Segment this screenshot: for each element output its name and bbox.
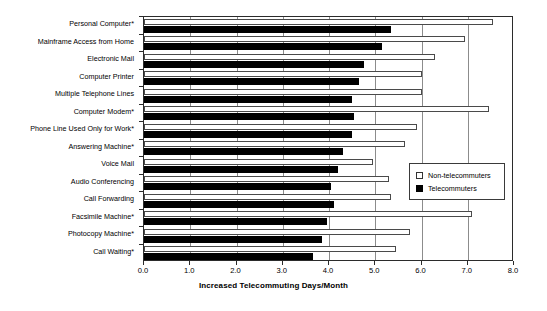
x-axis-tick — [421, 261, 422, 265]
bar-telecommuters — [144, 183, 331, 190]
category-label: Electronic Mail — [87, 55, 134, 63]
bar-row — [144, 124, 512, 142]
bar-row — [144, 211, 512, 229]
bar-telecommuters — [144, 113, 354, 120]
x-axis-tick-label: 7.0 — [461, 266, 472, 275]
telecommuting-bar-chart: Personal Computer*Mainframe Access from … — [0, 0, 547, 311]
bar-non-telecommuters — [144, 71, 422, 77]
bar-row — [144, 36, 512, 54]
hollow-square-swatch-icon — [416, 172, 423, 179]
bar-telecommuters — [144, 218, 327, 225]
category-label: Mainframe Access from Home — [38, 38, 134, 46]
bar-rows — [144, 17, 512, 260]
x-axis-tick — [282, 261, 283, 265]
x-axis-tick — [189, 261, 190, 265]
x-axis-ticks: 0.01.02.03.04.05.06.07.08.0 — [143, 261, 514, 281]
legend-label: Telecommuters — [428, 184, 477, 193]
bar-telecommuters — [144, 61, 364, 68]
category-label: Computer Printer — [79, 73, 134, 81]
bar-telecommuters — [144, 131, 352, 138]
bar-telecommuters — [144, 78, 359, 85]
bar-telecommuters — [144, 253, 313, 260]
category-label: Computer Modem* — [74, 108, 134, 116]
category-label: Facsimile Machine* — [72, 213, 134, 221]
x-axis-tick — [143, 261, 144, 265]
filled-square-swatch-icon — [416, 185, 423, 192]
bar-non-telecommuters — [144, 211, 472, 217]
category-label: Multiple Telephone Lines — [55, 90, 134, 98]
bar-row — [144, 54, 512, 72]
legend-label: Non-telecommuters — [428, 171, 491, 180]
bar-telecommuters — [144, 166, 338, 173]
bar-non-telecommuters — [144, 159, 373, 165]
bar-row — [144, 229, 512, 247]
bar-row — [144, 19, 512, 37]
x-axis-tick-label: 0.0 — [138, 266, 149, 275]
category-label: Voice Mail — [101, 160, 134, 168]
bar-non-telecommuters — [144, 246, 396, 252]
category-label: Audio Conferencing — [71, 178, 134, 186]
bar-telecommuters — [144, 43, 382, 50]
x-axis-tick-label: 6.0 — [415, 266, 426, 275]
x-axis-tick — [374, 261, 375, 265]
bar-non-telecommuters — [144, 106, 489, 112]
category-label: Call Waiting* — [93, 248, 134, 256]
bar-non-telecommuters — [144, 141, 405, 147]
bar-row — [144, 71, 512, 89]
bar-row — [144, 89, 512, 107]
category-label: Photocopy Machine* — [68, 230, 134, 238]
chart-legend: Non-telecommuters Telecommuters — [409, 163, 505, 200]
x-axis-tick — [236, 261, 237, 265]
plot-area — [143, 16, 513, 261]
x-axis-tick-label: 5.0 — [369, 266, 380, 275]
bar-non-telecommuters — [144, 124, 417, 130]
x-axis-title: Increased Telecommuting Days/Month — [0, 281, 547, 290]
legend-item-non-telecommuters: Non-telecommuters — [416, 171, 499, 180]
bar-non-telecommuters — [144, 19, 493, 25]
x-axis-tick-label: 3.0 — [276, 266, 287, 275]
bar-non-telecommuters — [144, 54, 435, 60]
bar-telecommuters — [144, 26, 391, 33]
category-label: Personal Computer* — [69, 20, 134, 28]
category-label: Answering Machine* — [68, 143, 134, 151]
x-axis-tick-label: 4.0 — [323, 266, 334, 275]
bar-non-telecommuters — [144, 89, 422, 95]
bar-non-telecommuters — [144, 36, 465, 42]
category-axis: Personal Computer*Mainframe Access from … — [0, 16, 139, 261]
bar-non-telecommuters — [144, 176, 389, 182]
bar-telecommuters — [144, 236, 322, 243]
bar-telecommuters — [144, 201, 334, 208]
category-label: Call Forwarding — [84, 195, 134, 203]
x-axis-tick-label: 2.0 — [230, 266, 241, 275]
bar-telecommuters — [144, 96, 352, 103]
x-axis-tick — [513, 261, 514, 265]
legend-item-telecommuters: Telecommuters — [416, 184, 499, 193]
x-axis-tick-label: 1.0 — [184, 266, 195, 275]
x-axis-tick-label: 8.0 — [508, 266, 519, 275]
x-axis-tick — [328, 261, 329, 265]
bar-telecommuters — [144, 148, 343, 155]
x-axis-tick — [467, 261, 468, 265]
bar-non-telecommuters — [144, 194, 391, 200]
bar-row — [144, 106, 512, 124]
bar-non-telecommuters — [144, 229, 410, 235]
bar-row — [144, 141, 512, 159]
category-label: Phone Line Used Only for Work* — [30, 125, 134, 133]
